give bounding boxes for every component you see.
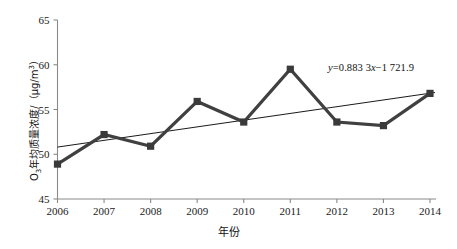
y-axis-title-subscript: 3 (35, 169, 43, 173)
data-point-2009 (194, 98, 201, 105)
x-axis-title: 年份 (0, 223, 457, 239)
x-tick-label-2011: 2011 (280, 205, 302, 217)
data-point-2007 (100, 131, 107, 138)
y-axis-title-text: 年均质量浓度/（μg/m (29, 69, 40, 168)
x-tick-label-2014: 2014 (419, 205, 442, 217)
x-tick-label-2010: 2010 (233, 205, 256, 217)
data-point-2011 (287, 66, 294, 73)
data-point-2012 (333, 118, 340, 125)
series-line-path (58, 69, 431, 164)
x-tick-label-2012: 2012 (326, 205, 348, 217)
chart-container: 4550556065 20062007200820092010201120122… (0, 0, 457, 249)
data-point-2008 (147, 143, 154, 150)
series-markers (54, 66, 434, 168)
y-tick-label-65: 65 (39, 14, 51, 26)
y-axis-title-species: O (29, 173, 40, 181)
y-axis-ticks (54, 20, 58, 199)
equation-intercept: 1 721.9 (382, 62, 414, 73)
trendline-equation-label: y=0.883 3x−1 721.9 (328, 62, 414, 73)
x-tick-label-2013: 2013 (372, 205, 395, 217)
x-tick-labels: 200620072008200920102011201220132014 (47, 205, 442, 217)
data-point-2010 (240, 118, 247, 125)
x-tick-label-2006: 2006 (47, 205, 70, 217)
x-tick-label-2007: 2007 (93, 205, 116, 217)
y-axis-title-tail: ） (29, 55, 40, 65)
y-tick-label-45: 45 (39, 193, 51, 205)
x-tick-label-2008: 2008 (140, 205, 163, 217)
chart-plot-area: 4550556065 20062007200820092010201120122… (0, 0, 457, 249)
y-axis-title: O3年均质量浓度/（μg/m3） (26, 55, 43, 181)
data-point-2013 (380, 122, 387, 129)
data-point-2006 (54, 161, 61, 168)
data-point-2014 (426, 90, 433, 97)
y-axis-title-superscript: 3 (28, 65, 36, 69)
x-tick-label-2009: 2009 (186, 205, 209, 217)
x-axis-ticks (58, 199, 431, 203)
equation-slope: 0.883 3 (339, 62, 371, 73)
